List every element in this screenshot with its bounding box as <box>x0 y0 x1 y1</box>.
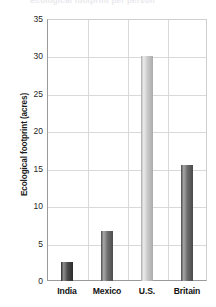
bar-india <box>61 262 73 281</box>
bar-slot-us <box>127 19 167 281</box>
bar-slot-india <box>47 19 87 281</box>
bar-us <box>141 56 153 281</box>
y-tick-0: 0 <box>3 277 43 286</box>
bar-britain <box>181 165 193 281</box>
bar-slot-mexico <box>87 19 127 281</box>
bar-slot-britain <box>167 19 207 281</box>
y-tick-35: 35 <box>3 15 43 24</box>
y-axis-tick-labels: 35 30 25 20 15 10 5 0 <box>0 19 43 281</box>
y-tick-10: 10 <box>3 202 43 211</box>
x-tick-mexico: Mexico <box>87 286 127 296</box>
x-axis-tick-labels: India Mexico U.S. Britain <box>47 286 207 302</box>
x-tick-us: U.S. <box>127 286 167 296</box>
x-tick-britain: Britain <box>167 286 207 296</box>
x-tick-india: India <box>47 286 87 296</box>
y-tick-20: 20 <box>3 127 43 136</box>
bar-chart-figure: Ecological footprint per person Ecologic… <box>0 0 216 307</box>
bar-mexico <box>101 231 113 281</box>
y-tick-30: 30 <box>3 52 43 61</box>
y-tick-25: 25 <box>3 90 43 99</box>
bars-layer <box>47 19 207 281</box>
chart-title: Ecological footprint per person <box>30 0 210 6</box>
y-tick-5: 5 <box>3 239 43 248</box>
y-tick-15: 15 <box>3 164 43 173</box>
